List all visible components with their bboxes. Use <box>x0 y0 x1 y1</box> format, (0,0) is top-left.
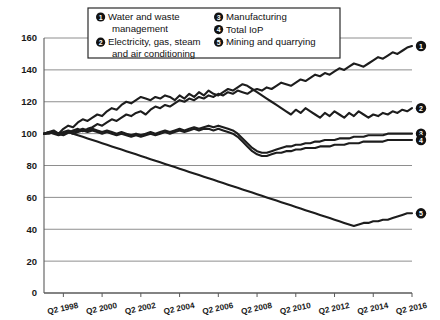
series-end-marker-label: 2 <box>419 105 423 112</box>
y-axis-tick-label: 140 <box>21 64 37 75</box>
y-axis-tick-label: 0 <box>32 287 37 298</box>
series-end-marker-label: 4 <box>419 137 423 144</box>
y-axis-tick-label: 20 <box>26 256 37 267</box>
series-line-3 <box>44 126 412 153</box>
series-line-1 <box>44 46 412 135</box>
legend-bullet-number: 1 <box>99 14 103 21</box>
x-axis-tick-label: Q2 2012 <box>318 301 351 316</box>
chart-container: 020406080100120140160Q2 1998Q2 2000Q2 20… <box>0 0 440 320</box>
x-axis-tick-label: Q2 1998 <box>47 301 80 316</box>
x-axis-tick-label: Q2 2004 <box>163 301 196 316</box>
legend-item-label: Electricity, gas, steam <box>108 36 201 47</box>
legend-bullet-number: 5 <box>217 39 221 46</box>
legend-bullet-number: 4 <box>217 26 221 33</box>
y-axis-tick-label: 160 <box>21 32 37 43</box>
x-axis-tick-label: Q2 2010 <box>279 301 312 316</box>
legend-item-label: Water and waste <box>108 11 180 22</box>
y-axis-tick-label: 100 <box>21 128 37 139</box>
legend-item-label: Manufacturing <box>226 11 287 22</box>
x-axis-tick-label: Q2 2002 <box>124 301 157 316</box>
y-axis-tick-label: 40 <box>26 224 37 235</box>
x-axis-tick-label: Q2 2016 <box>395 301 428 316</box>
legend-item-label: and air conditioning <box>112 48 195 59</box>
x-axis-tick-label: Q2 2014 <box>356 301 389 316</box>
line-chart: 020406080100120140160Q2 1998Q2 2000Q2 20… <box>0 0 440 320</box>
y-axis-tick-label: 80 <box>26 160 37 171</box>
legend-item-label: management <box>112 23 168 34</box>
series-end-marker-label: 5 <box>419 210 423 217</box>
x-axis-tick-label: Q2 2000 <box>85 301 118 316</box>
series-line-5 <box>44 132 412 226</box>
y-axis-tick-label: 60 <box>26 192 37 203</box>
series-end-marker-label: 1 <box>419 43 423 50</box>
legend-bullet-number: 2 <box>99 39 103 46</box>
x-axis-tick-label: Q2 2006 <box>201 301 234 316</box>
y-axis-tick-label: 120 <box>21 96 37 107</box>
legend-item-label: Mining and quarrying <box>226 36 316 47</box>
legend-bullet-number: 3 <box>217 14 221 21</box>
x-axis-tick-label: Q2 2008 <box>240 301 273 316</box>
legend-item-label: Total IoP <box>226 24 263 35</box>
